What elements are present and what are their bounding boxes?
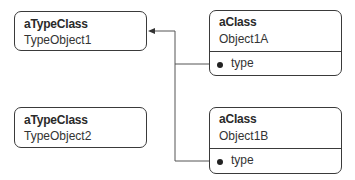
connector-trunk (152, 31, 175, 161)
object-1a-name: Object1A (219, 32, 268, 46)
object-1b-divider (210, 148, 341, 149)
object-1a-box: aClass Object1A type (209, 10, 342, 76)
type-object-1-name: TypeObject1 (24, 33, 91, 47)
object-1a-divider (210, 51, 341, 52)
object-1b-name: Object1B (219, 129, 268, 143)
object-1b-attribute-dot-icon (217, 159, 223, 165)
object-1b-box: aClass Object1B type (209, 107, 342, 174)
type-object-2-class: aTypeClass (24, 113, 88, 127)
object-1b-class: aClass (219, 112, 257, 126)
object-1a-attribute: type (231, 56, 254, 70)
type-object-2-name: TypeObject2 (24, 129, 91, 143)
object-1a-attribute-dot-icon (217, 62, 223, 68)
type-object-2-box: aTypeClass TypeObject2 (14, 107, 147, 148)
type-object-1-box: aTypeClass TypeObject1 (14, 11, 147, 51)
object-1b-attribute: type (231, 153, 254, 167)
arrowhead-icon (148, 28, 155, 34)
object-1a-class: aClass (219, 15, 257, 29)
type-object-1-class: aTypeClass (24, 17, 88, 31)
